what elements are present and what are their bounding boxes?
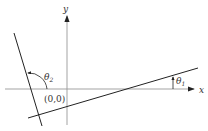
line-2 [14, 33, 42, 126]
theta2-label: θ2 [44, 72, 53, 83]
diagram-canvas: y x (0,0) θ2 θ1 [0, 0, 208, 131]
line-1 [28, 68, 198, 118]
y-axis-label: y [62, 4, 69, 14]
theta1-label: θ1 [176, 76, 185, 87]
origin-label: (0,0) [44, 94, 65, 104]
x-axis-label: x [199, 85, 204, 95]
